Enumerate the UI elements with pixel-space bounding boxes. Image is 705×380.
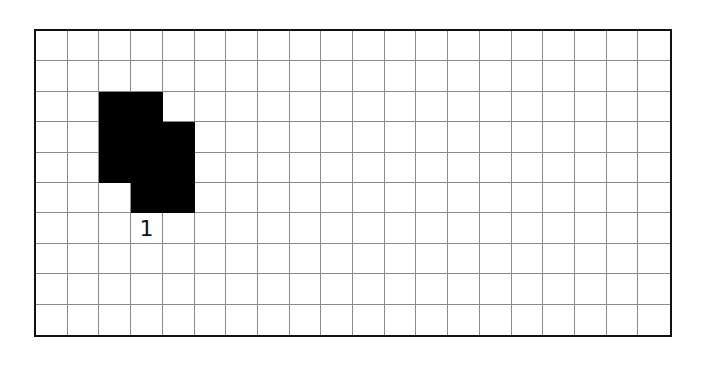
grid-diagram: 1 bbox=[34, 29, 672, 337]
grid-cell bbox=[575, 31, 607, 61]
grid-cell bbox=[385, 61, 417, 91]
grid-cell bbox=[575, 183, 607, 213]
grid-cell bbox=[131, 274, 163, 304]
grid-cell bbox=[290, 274, 322, 304]
grid-cell bbox=[543, 274, 575, 304]
grid-cell bbox=[416, 122, 448, 152]
grid-cell bbox=[607, 92, 639, 122]
grid-cell bbox=[353, 305, 385, 335]
grid-cell: 1 bbox=[131, 213, 163, 243]
grid-cell bbox=[607, 213, 639, 243]
grid-cell bbox=[163, 61, 195, 91]
grid-cell bbox=[448, 274, 480, 304]
grid-cell bbox=[575, 305, 607, 335]
grid-cell bbox=[321, 122, 353, 152]
grid-cell bbox=[575, 274, 607, 304]
grid-cell bbox=[638, 244, 670, 274]
filled-cell bbox=[131, 92, 163, 122]
grid-cell bbox=[226, 153, 258, 183]
grid-cell bbox=[448, 31, 480, 61]
grid-cell bbox=[607, 153, 639, 183]
grid-cell bbox=[448, 213, 480, 243]
grid-cell bbox=[195, 61, 227, 91]
grid-cell bbox=[36, 153, 68, 183]
grid-cell bbox=[226, 213, 258, 243]
grid-cell bbox=[36, 274, 68, 304]
grid-cell bbox=[353, 153, 385, 183]
grid-cell bbox=[321, 274, 353, 304]
grid-cell bbox=[638, 31, 670, 61]
grid-cell bbox=[607, 274, 639, 304]
grid-cell bbox=[321, 92, 353, 122]
grid-cell bbox=[480, 274, 512, 304]
grid-cell bbox=[258, 61, 290, 91]
grid-cell bbox=[543, 122, 575, 152]
grid-cell bbox=[543, 153, 575, 183]
grid-cell bbox=[163, 31, 195, 61]
grid-cell bbox=[448, 61, 480, 91]
grid-cell bbox=[385, 244, 417, 274]
grid-cell bbox=[512, 305, 544, 335]
grid-cell bbox=[512, 31, 544, 61]
grid-cell bbox=[195, 244, 227, 274]
grid-cell bbox=[512, 244, 544, 274]
grid-cell bbox=[448, 153, 480, 183]
grid-cell bbox=[195, 122, 227, 152]
grid-cell bbox=[638, 213, 670, 243]
grid-cell bbox=[321, 31, 353, 61]
grid-cell bbox=[353, 31, 385, 61]
grid-cell bbox=[131, 31, 163, 61]
grid-cell bbox=[68, 244, 100, 274]
shape-label: 1 bbox=[131, 213, 162, 242]
grid-cell bbox=[543, 92, 575, 122]
grid-cell bbox=[68, 61, 100, 91]
grid-cell bbox=[68, 92, 100, 122]
grid-cell bbox=[480, 31, 512, 61]
grid-cell bbox=[480, 183, 512, 213]
grid-cell bbox=[68, 122, 100, 152]
grid-cell bbox=[163, 244, 195, 274]
grid-cell bbox=[416, 31, 448, 61]
grid-cell bbox=[258, 31, 290, 61]
grid-cell bbox=[480, 61, 512, 91]
grid-cell bbox=[543, 183, 575, 213]
grid-cell bbox=[195, 274, 227, 304]
grid-cell bbox=[638, 122, 670, 152]
grid-cell bbox=[607, 61, 639, 91]
grid-cell bbox=[353, 213, 385, 243]
grid-cell bbox=[512, 153, 544, 183]
grid-cell bbox=[638, 274, 670, 304]
grid-cell bbox=[321, 153, 353, 183]
grid-cell bbox=[385, 31, 417, 61]
grid-cell bbox=[575, 244, 607, 274]
grid-cell bbox=[131, 244, 163, 274]
grid-cell bbox=[448, 92, 480, 122]
grid-cell bbox=[290, 153, 322, 183]
grid-cell bbox=[258, 153, 290, 183]
grid-cell bbox=[385, 183, 417, 213]
grid-cell bbox=[353, 183, 385, 213]
grid-cell bbox=[36, 122, 68, 152]
grid-cell bbox=[99, 183, 131, 213]
grid-cell bbox=[226, 92, 258, 122]
grid-cell bbox=[416, 183, 448, 213]
filled-cell bbox=[163, 122, 195, 152]
grid-cell bbox=[416, 274, 448, 304]
grid-cell bbox=[416, 61, 448, 91]
grid-cell bbox=[226, 31, 258, 61]
grid-cell bbox=[638, 92, 670, 122]
grid-cell bbox=[36, 92, 68, 122]
grid-cell bbox=[68, 274, 100, 304]
grid-cell bbox=[226, 61, 258, 91]
grid-cell bbox=[638, 61, 670, 91]
grid-cell bbox=[543, 244, 575, 274]
grid-cell bbox=[258, 244, 290, 274]
filled-cell bbox=[131, 153, 163, 183]
grid-cell bbox=[68, 153, 100, 183]
grid-cell bbox=[607, 31, 639, 61]
grid-cell bbox=[512, 213, 544, 243]
grid-cell bbox=[480, 305, 512, 335]
grid-cell bbox=[195, 31, 227, 61]
grid-cell bbox=[99, 31, 131, 61]
grid-cell bbox=[290, 61, 322, 91]
